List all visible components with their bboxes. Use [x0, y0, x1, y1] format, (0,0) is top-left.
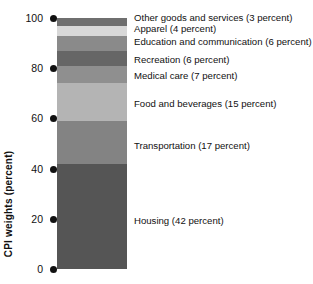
cpi-weights-chart: CPI weights (percent) 100806040200 Other… [0, 0, 313, 284]
segment-label: Food and beverages (15 percent) [134, 98, 276, 109]
y-axis-tick-dot-icon [50, 115, 57, 122]
y-axis-tick-dot-icon [50, 216, 57, 223]
y-axis-tick-60: 60 [0, 112, 57, 124]
y-axis-tick-label: 40 [9, 163, 43, 175]
bar-segment [57, 18, 127, 26]
y-axis-tick-dot-icon [50, 266, 57, 273]
segment-label: Recreation (6 percent) [134, 54, 229, 65]
stacked-bar [57, 18, 127, 269]
bar-segment [57, 164, 127, 269]
segment-label: Medical care (7 percent) [134, 70, 237, 81]
bar-segment [57, 83, 127, 121]
y-axis-tick-label: 0 [9, 263, 43, 275]
y-axis-tick-100: 100 [0, 12, 57, 24]
bar-segment [57, 51, 127, 66]
bar-segment [57, 66, 127, 84]
y-axis-title: CPI weights (percent) [3, 139, 19, 269]
y-axis-tick-0: 0 [0, 263, 57, 275]
y-axis-tick-dot-icon [50, 166, 57, 173]
segment-label: Education and communication (6 percent) [134, 36, 312, 47]
segment-label: Housing (42 percent) [134, 215, 224, 226]
segment-label: Transportation (17 percent) [134, 140, 250, 151]
y-axis-tick-label: 80 [9, 62, 43, 74]
y-axis-tick-dot-icon [50, 65, 57, 72]
y-axis-tick-40: 40 [0, 163, 57, 175]
y-axis-tick-20: 20 [0, 213, 57, 225]
segment-label: Apparel (4 percent) [134, 23, 216, 34]
bar-segment [57, 26, 127, 36]
y-axis-tick-label: 60 [9, 112, 43, 124]
y-axis-tick-label: 100 [9, 12, 43, 24]
segment-label: Other goods and services (3 percent) [134, 12, 292, 23]
y-axis-tick-80: 80 [0, 62, 57, 74]
bar-segment [57, 121, 127, 164]
y-axis-tick-dot-icon [50, 15, 57, 22]
bar-segment [57, 36, 127, 51]
y-axis-tick-label: 20 [9, 213, 43, 225]
